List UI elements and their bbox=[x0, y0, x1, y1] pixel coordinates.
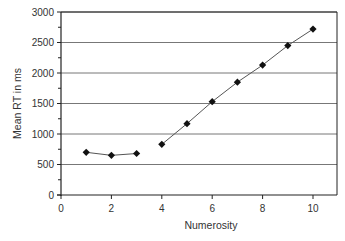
diamond-marker bbox=[83, 149, 90, 156]
y-tick-label: 0 bbox=[48, 190, 54, 201]
x-tick-label: 10 bbox=[307, 203, 319, 214]
chart: 0500100015002000250030000246810Numerosit… bbox=[0, 0, 345, 241]
axes bbox=[57, 12, 337, 199]
x-tick-label: 4 bbox=[159, 203, 165, 214]
y-tick-label: 3000 bbox=[32, 7, 55, 18]
data-series bbox=[83, 25, 317, 158]
diamond-marker bbox=[108, 152, 115, 159]
x-tick-label: 0 bbox=[58, 203, 64, 214]
y-tick-label: 2500 bbox=[32, 37, 55, 48]
y-tick-label: 1500 bbox=[32, 98, 55, 109]
diamond-marker bbox=[133, 150, 140, 157]
y-axis-title: Mean RT in ms bbox=[11, 68, 23, 139]
x-axis-title: Numerosity bbox=[184, 219, 238, 231]
y-tick-label: 2000 bbox=[32, 68, 55, 79]
x-tick-label: 2 bbox=[109, 203, 115, 214]
gridlines bbox=[61, 12, 337, 165]
x-tick-label: 8 bbox=[260, 203, 266, 214]
axis-labels: 0500100015002000250030000246810Numerosit… bbox=[11, 7, 319, 232]
y-tick-label: 500 bbox=[37, 159, 54, 170]
x-tick-label: 6 bbox=[209, 203, 215, 214]
diamond-marker bbox=[309, 25, 316, 32]
y-tick-label: 1000 bbox=[32, 129, 55, 140]
